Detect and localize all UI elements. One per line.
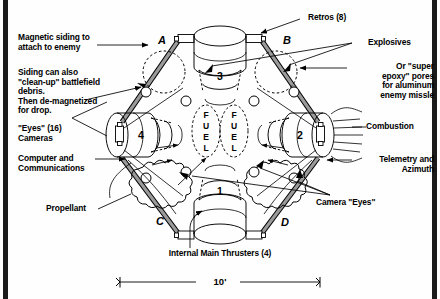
corner-module-a-top [175,35,195,43]
svg-text:L: L [231,143,236,153]
svg-text:E: E [203,132,209,142]
svg-text:U: U [231,121,237,131]
callout-combustion: Combustion [366,122,414,132]
corner-letter-b: B [283,34,291,46]
callout-telemetry-azimuth: Telemetry and Azimuth [348,155,434,174]
svg-text:L: L [203,143,208,153]
svg-text:F: F [231,110,236,120]
callout-internal-main-thrusters: Internal Main Thrusters (4) [120,249,320,259]
scale-label: 10' [214,276,227,287]
thruster-3 [194,26,246,105]
callout-computer-communications: Computer and Communications [18,154,85,173]
corner-letter-d: D [281,216,289,228]
fuel-label-right: FUEL [231,110,237,153]
corner-letter-a: A [157,34,166,46]
corner-module-left [116,123,124,146]
fuel-tanks [192,105,248,157]
thruster-number-2: 2 [297,129,303,141]
callout-eyes-cameras: "Eyes" (16) Cameras [18,124,62,143]
callout-magnetic-siding: Magnetic siding to attach to enemy [18,33,90,52]
callout-super-epoxy: Or "super epoxy" pores for aluminum enem… [348,62,434,100]
callout-camera-eyes: Camera "Eyes" [316,198,375,208]
thruster-number-3: 3 [217,70,223,82]
svg-text:F: F [203,110,208,120]
leader-lines-right [192,19,366,195]
callout-explosives: Explosives [368,38,411,48]
callout-retros: Retros (8) [308,13,346,23]
fuel-label-left: FUEL [203,110,209,153]
thruster-number-1: 1 [217,185,223,197]
corner-module-right [317,123,325,146]
corner-module-b-top [246,35,266,43]
svg-text:U: U [203,121,209,131]
svg-text:E: E [231,132,237,142]
thruster-number-4: 4 [138,129,144,141]
corner-letter-c: C [156,215,165,227]
callout-propellant: Propellant [46,204,86,214]
callout-siding-cleanup: Siding can also "clean-up" battlefield d… [18,68,100,116]
thruster-1 [194,165,246,244]
figure-frame: A B C D 1 2 3 4 FUEL FUEL 10' Magnetic s… [0,0,440,299]
